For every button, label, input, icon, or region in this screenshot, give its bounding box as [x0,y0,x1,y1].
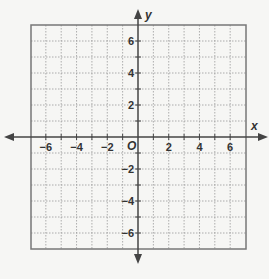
x-axis-right-arrow-icon [258,133,268,141]
x-tick-label: 6 [227,141,233,153]
origin-label: O [127,139,137,153]
coordinate-plane: −6−4−2246−6−4−2246 x y O [0,0,269,279]
y-axis-label: y [144,8,153,22]
y-tick-label: 6 [128,35,134,47]
x-tick-label: −6 [40,141,53,153]
y-tick-label: −6 [121,227,134,239]
y-axis-down-arrow-icon [134,254,142,264]
axes [4,9,268,264]
y-axis-up-arrow-icon [134,9,142,19]
x-tick-label: 4 [196,141,203,153]
x-tick-label: 2 [166,141,172,153]
y-tick-label: −4 [121,195,134,207]
y-tick-label: −2 [121,163,134,175]
y-tick-label: 2 [128,99,134,111]
x-axis-left-arrow-icon [4,133,14,141]
x-axis-label: x [250,119,259,133]
x-tick-label: −2 [101,141,114,153]
x-tick-label: −4 [70,141,83,153]
y-tick-label: 4 [128,67,135,79]
